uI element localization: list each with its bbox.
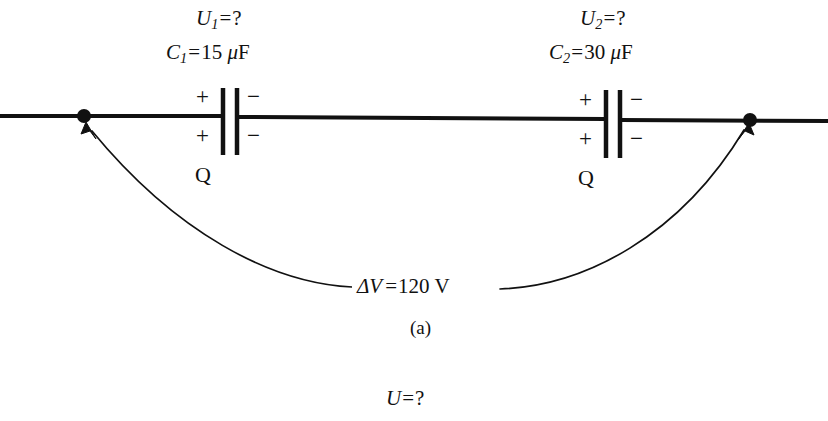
source-voltage-unit: V	[435, 274, 450, 298]
capacitor-1-voltage-variable: U	[196, 6, 211, 30]
capacitor-2-plus-bottom: +	[579, 127, 592, 150]
source-voltage-label: ΔV=120V	[352, 274, 455, 299]
capacitor-2-minus-bottom: −	[630, 127, 643, 150]
node-dot-left	[77, 109, 91, 123]
capacitor-2-capacitance-equals: =	[570, 40, 584, 64]
capacitor-2-minus-top: −	[630, 88, 643, 111]
source-voltage-value: 120	[398, 274, 430, 298]
wire-right-segment	[620, 120, 828, 121]
capacitor-1-voltage-label: U1=?	[196, 8, 242, 31]
capacitor-2-voltage-value: ?	[616, 6, 625, 30]
capacitor-2-capacitance-value: 30	[584, 40, 605, 64]
capacitor-1-minus-top: −	[247, 85, 260, 108]
capacitor-2-unit: F	[621, 40, 633, 64]
total-voltage-variable: U	[386, 386, 401, 410]
capacitor-2-capacitance-label: C2=30μF	[549, 42, 633, 65]
capacitor-2-plus-top: +	[579, 88, 592, 111]
capacitor-circuit-figure: U1=? C1=15μF + + − − Q U2=? C2=30μF + + …	[0, 0, 828, 421]
capacitor-1-minus-bottom: −	[247, 124, 260, 147]
source-voltage-symbol: ΔV	[357, 274, 382, 298]
capacitor-1-voltage-equals: =	[218, 6, 232, 30]
source-voltage-equals: =	[384, 274, 398, 298]
wire-middle-segment	[236, 117, 606, 119]
capacitor-2-voltage-variable: U	[580, 6, 595, 30]
capacitor-1-plus-top: +	[196, 85, 209, 108]
total-voltage-value: ?	[415, 386, 424, 410]
capacitor-1-unit-prefix: μ	[227, 40, 238, 64]
capacitor-1-voltage-value: ?	[232, 6, 241, 30]
capacitor-1-capacitance-equals: =	[187, 40, 201, 64]
capacitor-1-capacitance-value: 15	[201, 40, 222, 64]
capacitor-1-capacitance-variable: C	[166, 40, 180, 64]
capacitor-2-unit-prefix: μ	[610, 40, 621, 64]
total-voltage-label: U=?	[386, 388, 424, 409]
total-voltage-equals: =	[401, 386, 415, 410]
capacitor-2-charge-label: Q	[578, 167, 594, 189]
capacitor-1-capacitance-label: C1=15μF	[166, 42, 250, 65]
capacitor-1-unit: F	[238, 40, 250, 64]
figure-caption: (a)	[410, 318, 431, 337]
capacitor-1-plus-bottom: +	[196, 124, 209, 147]
capacitor-2-voltage-label: U2=?	[580, 8, 626, 31]
voltage-arc-left-arrowhead	[81, 122, 96, 139]
capacitor-1-charge-label: Q	[195, 164, 211, 186]
capacitor-2-voltage-equals: =	[602, 6, 616, 30]
circuit-drawing	[0, 0, 828, 421]
capacitor-2-capacitance-variable: C	[549, 40, 563, 64]
